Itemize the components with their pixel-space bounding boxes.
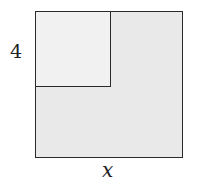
inner-side-label: 4 [10,40,22,62]
inner-square [35,11,111,87]
outer-side-label: x [102,158,113,182]
